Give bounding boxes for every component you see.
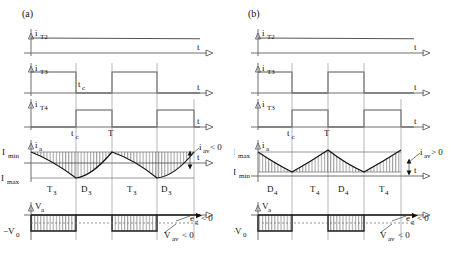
va-eg-rel: < 0 — [201, 213, 213, 223]
ia-average-label: i — [420, 147, 423, 157]
trace-it4: i T4 t — [24, 99, 213, 130]
trace-it3: i T3 t t c — [24, 63, 213, 96]
tick-tc-label: t — [71, 128, 74, 138]
segment-sub-0: 3 — [53, 189, 57, 197]
va-vav-annotation: V av < 0 — [164, 224, 194, 243]
trace-it3-upper: i T3 t — [251, 63, 430, 96]
trace-it3-lower-ysub: T3 — [267, 104, 275, 112]
trace-it3-upper-ysub: T3 — [267, 68, 275, 76]
va-vav-annotation: V av < 0 — [380, 224, 410, 243]
panel-tag-b: (b) — [248, 8, 260, 20]
trace-ia-ylabel: i — [35, 140, 38, 150]
trace-it2-ylabel: i — [262, 28, 265, 38]
va-eg-sub: g — [195, 218, 199, 226]
trace-it2-xlabel: t — [197, 42, 200, 52]
ia-average-label: i — [199, 142, 202, 152]
trace-it2: i T2 t — [251, 28, 430, 56]
tick-T-label: T — [108, 128, 114, 138]
segment-sub-3: 4 — [385, 189, 389, 197]
trace-it2-ylabel: i — [35, 28, 38, 38]
trace-ia: i a t I max I min i av > 0 — [234, 140, 443, 197]
segment-sub-2: 3 — [133, 189, 137, 197]
segment-label-1: D — [81, 184, 88, 194]
va-vav-label: V — [380, 230, 387, 240]
segment-sub-2: 4 — [345, 189, 349, 197]
trace-it3-xlabel: t — [197, 82, 200, 92]
trace-it3-lower-ylabel: i — [262, 99, 265, 109]
time-gridlines-a — [76, 63, 194, 240]
ia-bottom-level-label: I — [1, 173, 4, 183]
panel-b-svg: (b) i T2 t i T3 t — [234, 0, 468, 263]
va-negative-level: −V — [234, 226, 242, 236]
va-vav-rel: < 0 — [398, 230, 410, 240]
trace-va: V a −V 0 e g < 0 V av < 0 — [3, 201, 213, 243]
trace-it2-ysub: T2 — [267, 33, 275, 41]
va-vav-sub: av — [172, 235, 179, 243]
ia-segment-labels: T 3 D 3 T 3 D 3 — [47, 184, 172, 197]
trace-it2-ysub: T2 — [40, 33, 48, 41]
panel-a-svg: (a) i T2 t i T3 t — [0, 0, 234, 263]
va-vav-rel: < 0 — [182, 230, 194, 240]
va-eg-label: e — [406, 213, 410, 223]
segment-sub-0: 4 — [274, 189, 278, 197]
trace-it4-ysub: T4 — [40, 104, 48, 112]
ia-average-rel: > 0 — [431, 147, 443, 157]
segment-label-2: D — [338, 184, 345, 194]
ia-average-annotation: i av > 0 — [407, 147, 444, 176]
va-eg-sub: g — [411, 218, 415, 226]
segment-label-3: D — [161, 184, 168, 194]
trace-va-ysub: a — [41, 206, 45, 214]
va-pulse-1 — [112, 215, 157, 231]
waveform-figure: (a) i T2 t i T3 t — [0, 0, 468, 263]
ia-top-level-label: I — [2, 147, 5, 157]
va-negative-level-sub: 0 — [16, 231, 20, 239]
panel-a: (a) i T2 t i T3 t — [0, 0, 234, 263]
va-negative-level-sub: 0 — [243, 231, 247, 239]
tick-tc-label-upper: t — [78, 79, 81, 89]
trace-it2: i T2 t — [24, 28, 213, 56]
ia-average-rel: < 0 — [210, 142, 222, 152]
trace-ia-xlabel: t — [197, 152, 200, 162]
ia-top-level-label: I — [234, 147, 235, 157]
trace-va: V a −V 0 e g < 0 V av < 0 — [234, 201, 430, 243]
trace-it3-ysub: T3 — [40, 68, 48, 76]
trace-ia-xlabel: t — [414, 165, 417, 175]
tick-T-label: T — [324, 128, 330, 138]
trace-it3-upper-xlabel: t — [414, 82, 417, 92]
trace-va-ysub: a — [268, 206, 272, 214]
tick-tc-sub-upper: c — [82, 84, 85, 92]
ia-average-annotation: i av < 0 — [188, 142, 223, 170]
time-tick-labels-a: t c T — [71, 128, 114, 141]
va-pulse-0 — [31, 215, 76, 231]
ia-top-level-sub: max — [238, 152, 251, 160]
time-gridlines-b — [292, 63, 401, 240]
trace-it4-xlabel: t — [197, 116, 200, 126]
segment-sub-3: 3 — [168, 189, 172, 197]
va-eg-label: e — [190, 213, 194, 223]
trace-ia-ylabel: i — [262, 140, 265, 150]
time-tick-labels-b: t c T — [287, 128, 330, 141]
segment-sub-1: 3 — [88, 189, 92, 197]
va-negative-level: −V — [3, 226, 15, 236]
tick-tc-sub: c — [76, 133, 79, 141]
ia-bottom-level-sub: min — [239, 172, 250, 180]
segment-sub-1: 4 — [316, 189, 320, 197]
ia-bottom-level-sub: max — [7, 178, 20, 186]
va-eg-rel: < 0 — [417, 213, 429, 223]
ia-top-level-sub: min — [8, 152, 19, 160]
ia-hatch-region — [258, 150, 401, 172]
va-vav-label: V — [164, 230, 171, 240]
trace-it2-xlabel: t — [414, 42, 417, 52]
panel-tag-a: (a) — [22, 8, 33, 20]
va-vav-sub: av — [388, 235, 395, 243]
trace-it3-lower-xlabel: t — [414, 116, 417, 126]
trace-it4-ylabel: i — [35, 99, 38, 109]
trace-it3-lower: i T3 t — [251, 99, 430, 130]
segment-label-0: D — [267, 184, 274, 194]
tick-tc-label: t — [287, 128, 290, 138]
tick-tc-sub: c — [292, 133, 295, 141]
panel-b: (b) i T2 t i T3 t — [234, 0, 468, 263]
ia-bottom-level-label: I — [234, 167, 236, 177]
